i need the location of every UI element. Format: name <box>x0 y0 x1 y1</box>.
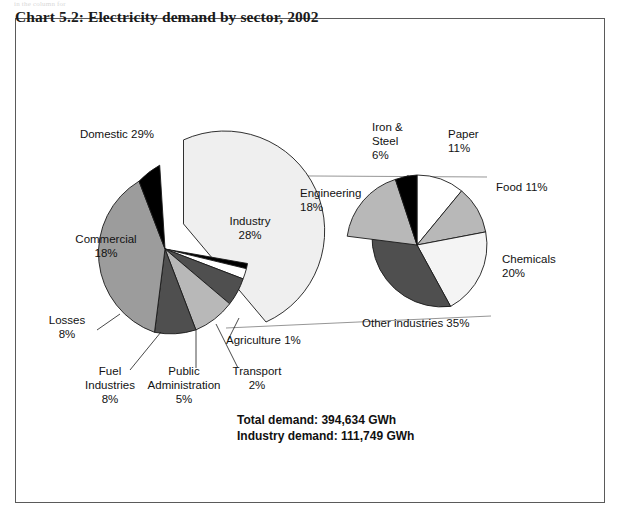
industry-demand-text: Industry demand: 111,749 GWh <box>237 428 414 444</box>
label-iron-steel: Iron & Steel 6% <box>372 120 403 162</box>
label-other-industries: Other industries 35% <box>362 316 469 330</box>
label-paper: Paper 11% <box>448 127 479 155</box>
chart-page: in the column for Chart 5.2: Electricity… <box>0 0 621 514</box>
label-chemicals: Chemicals 20% <box>502 252 556 280</box>
chart-title: Chart 5.2: Electricity demand by sector,… <box>15 8 319 26</box>
label-commercial: Commercial 18% <box>56 232 156 260</box>
label-engineering: Engineering 18% <box>300 186 361 214</box>
label-fuel-industries: Fuel Industries 8% <box>78 364 142 406</box>
total-demand-text: Total demand: 394,634 GWh <box>237 412 396 428</box>
label-domestic: Domestic 29% <box>52 127 182 141</box>
label-agriculture: Agriculture 1% <box>226 333 301 347</box>
label-industry: Industry 28% <box>215 214 285 242</box>
label-food: Food 11% <box>496 180 548 194</box>
label-public-administration: Public Administration 5% <box>141 364 227 406</box>
label-losses: Losses 8% <box>38 313 96 341</box>
label-transport: Transport 2% <box>226 364 288 392</box>
